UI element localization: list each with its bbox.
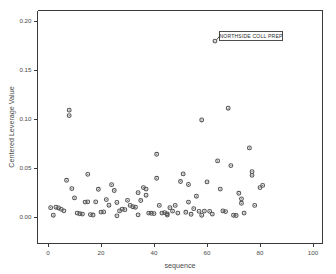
data-point-center [238, 193, 239, 194]
x-tick-label: 0 [46, 249, 50, 256]
data-point-center [212, 213, 213, 214]
data-point-center [185, 212, 186, 213]
data-point-center [127, 200, 128, 201]
data-point-center [209, 211, 210, 212]
x-tick-label: 20 [98, 249, 105, 256]
data-point-center [159, 205, 160, 206]
data-point-center [177, 212, 178, 213]
data-point-center [241, 198, 242, 199]
data-point-center [254, 205, 255, 206]
data-point-center [180, 181, 181, 182]
data-point-center [114, 190, 115, 191]
data-point-center [259, 187, 260, 188]
data-point-center [111, 184, 112, 185]
data-point-center [249, 147, 250, 148]
data-point-center [92, 214, 93, 215]
data-point-center [98, 189, 99, 190]
x-tick-label: 40 [151, 249, 158, 256]
data-point-center [193, 208, 194, 209]
data-point-center [137, 192, 138, 193]
data-point-center [95, 201, 96, 202]
data-point-center [241, 203, 242, 204]
data-point-center [236, 215, 237, 216]
data-point-center [169, 207, 170, 208]
data-point-center [230, 165, 231, 166]
data-point-center [116, 202, 117, 203]
data-point-center [50, 207, 51, 208]
data-point-center [145, 188, 146, 189]
data-point-center [137, 214, 138, 215]
data-point-center [190, 214, 191, 215]
x-tick-label: 60 [204, 249, 211, 256]
data-point-center [214, 40, 215, 41]
data-point-center [140, 200, 141, 201]
chart-background [0, 0, 336, 274]
data-point-center [106, 199, 107, 200]
data-point-center [251, 171, 252, 172]
data-point-center [82, 213, 83, 214]
y-tick-label: 0.05 [19, 164, 32, 171]
data-point-center [225, 211, 226, 212]
data-point-center [175, 205, 176, 206]
data-point-center [135, 207, 136, 208]
data-point-center [119, 210, 120, 211]
data-point-center [87, 201, 88, 202]
data-point-center [198, 211, 199, 212]
data-point-center [74, 197, 75, 198]
data-point-center [220, 188, 221, 189]
data-point-center [206, 181, 207, 182]
data-point-center [66, 180, 67, 181]
y-tick-label: 0.15 [19, 66, 32, 73]
data-point-center [217, 160, 218, 161]
data-point-center [183, 173, 184, 174]
scatter-plot-figure: 0.000.050.100.150.20 020406080100 NORTHS… [0, 0, 336, 274]
y-tick-label: 0.00 [19, 213, 32, 220]
y-tick-label: 0.20 [19, 17, 32, 24]
x-tick-label: 80 [257, 249, 264, 256]
data-point-center [124, 209, 125, 210]
x-axis-title: sequence [164, 261, 195, 270]
chart-canvas: 0.000.050.100.150.20 020406080100 NORTHS… [0, 0, 336, 274]
x-tick-label: 100 [308, 249, 319, 256]
data-point-center [116, 215, 117, 216]
data-point-center [201, 119, 202, 120]
data-point-center [153, 213, 154, 214]
data-point-center [61, 209, 62, 210]
data-point-center [204, 211, 205, 212]
data-point-center [108, 205, 109, 206]
data-point-center [143, 187, 144, 188]
data-point-center [71, 188, 72, 189]
data-point-center [145, 195, 146, 196]
data-point-center [243, 212, 244, 213]
data-point-center [262, 185, 263, 186]
data-point-center [63, 210, 64, 211]
y-tick-label: 0.10 [19, 115, 32, 122]
annotation-layer: NORTHSIDE COLL PREP [217, 32, 283, 41]
data-point-center [103, 211, 104, 212]
data-point-center [188, 201, 189, 202]
data-point-center [188, 184, 189, 185]
data-point-center [196, 196, 197, 197]
data-point-center [69, 115, 70, 116]
data-point-center [69, 110, 70, 111]
data-point-center [167, 214, 168, 215]
data-point-center [251, 175, 252, 176]
y-axis-title: Centered Leverage Value [7, 86, 16, 167]
data-point-center [53, 215, 54, 216]
data-point-center [172, 211, 173, 212]
data-point-center [156, 178, 157, 179]
data-point-center [87, 174, 88, 175]
data-point-center [201, 215, 202, 216]
data-point-center [156, 154, 157, 155]
annotation-label: NORTHSIDE COLL PREP [219, 33, 283, 39]
data-point-center [228, 108, 229, 109]
